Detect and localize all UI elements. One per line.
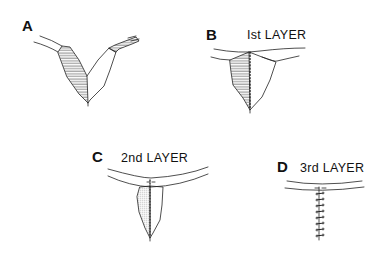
surgical-closure-diagram: A B Ist LAYER C 2nd LAYER D 3rd LAYER <box>0 0 386 254</box>
diagram-drawing <box>0 0 386 254</box>
panel-a-drawing <box>34 36 139 106</box>
panel-b-drawing <box>211 48 305 113</box>
panel-d-drawing <box>285 181 364 240</box>
panel-c-drawing <box>108 167 208 241</box>
